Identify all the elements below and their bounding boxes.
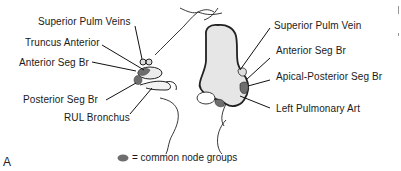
label-left-pulmonary-art: Left Pulmonary Art xyxy=(276,103,360,115)
edge-mark xyxy=(398,6,399,14)
label-apical-posterior-seg-br: Apical-Posterior Seg Br xyxy=(276,71,382,83)
legend-node-icon xyxy=(118,155,129,162)
label-anterior-seg-br-right: Anterior Seg Br xyxy=(19,57,89,69)
edge-mark xyxy=(398,33,399,36)
panel-label: A xyxy=(3,155,11,169)
left-lung-drawing xyxy=(197,8,248,126)
anatomy-diagram: Superior Pulm Veins Truncus Anterior Ant… xyxy=(0,0,401,171)
label-superior-pulm-veins: Superior Pulm Veins xyxy=(38,16,131,28)
label-superior-pulm-vein: Superior Pulm Vein xyxy=(274,20,361,32)
legend-text: = common node groups xyxy=(132,152,237,163)
label-anterior-seg-br-left: Anterior Seg Br xyxy=(276,45,346,57)
label-posterior-seg-br: Posterior Seg Br xyxy=(23,94,98,106)
right-hilum xyxy=(134,59,176,90)
label-rul-bronchus: RUL Bronchus xyxy=(64,112,130,124)
label-truncus-anterior: Truncus Anterior xyxy=(25,37,100,49)
